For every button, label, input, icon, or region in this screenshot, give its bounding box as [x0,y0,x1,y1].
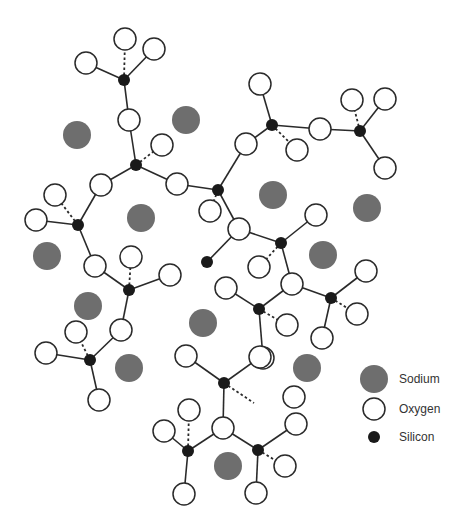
sodium-atom [309,241,337,269]
oxygen-atom [286,139,308,161]
legend-label-oxygen: Oxygen [399,402,440,416]
oxygen-atom [120,246,142,268]
oxygen-atom [178,399,200,421]
oxygen-atom [212,417,234,439]
legend-icons [360,365,388,443]
silicon-atom [325,292,337,304]
oxygen-atom [65,321,87,343]
oxygen-atom [173,483,195,505]
oxygen-atom [215,277,237,299]
oxygen-atom [245,482,267,504]
legend-label-silicon: Silicon [399,430,434,444]
legend-silicon-icon [368,431,380,443]
sodium-atom [353,194,381,222]
oxygen-atom [25,209,47,231]
oxygen-atom [341,89,363,111]
oxygen-atom [90,174,112,196]
oxygen-atom [346,303,368,325]
oxygen-atom [374,157,396,179]
sodium-atom [214,452,242,480]
oxygen-atom [143,38,165,60]
sodium-atom [33,242,61,270]
oxygen-atom [276,314,298,336]
silicate-network-diagram [0,0,455,528]
oxygen-atom [84,255,106,277]
oxygen-atom [309,118,331,140]
sodium-atom [63,121,91,149]
silicon-atom [130,159,142,171]
oxygen-atom [311,327,333,349]
sodium-atom [259,181,287,209]
sodium-atom [172,106,200,134]
silicon-atom [212,184,224,196]
oxygen-atom [305,204,327,226]
oxygen-atom [175,345,197,367]
oxygen-atom [228,218,250,240]
oxygen-atom [274,455,296,477]
oxygen-atom [283,386,305,408]
silicon-atom [266,119,278,131]
oxygen-atom [44,184,66,206]
oxygen-atom [153,420,175,442]
oxygen-atom [355,260,377,282]
sodium-atom [127,204,155,232]
oxygen-atom [249,346,271,368]
sodium-atom [189,309,217,337]
oxygen-atom [151,134,173,156]
oxygen-atom [114,28,136,50]
legend-label-sodium: Sodium [399,372,440,386]
silicon-atom [84,354,96,366]
oxygen-atom [118,109,140,131]
silicon-atom [275,237,287,249]
sodium-atom [293,354,321,382]
silicon-atom [123,284,135,296]
oxygen-atom [235,133,257,155]
oxygen-atom [88,389,110,411]
silicon-atom [118,74,130,86]
silicon-atom [354,125,366,137]
silicon-atom [253,303,265,315]
silicon-atom [182,445,194,457]
oxygen-atom [281,273,303,295]
legend-sodium-icon [360,365,388,393]
oxygen-atom [166,173,188,195]
silicon-atom [72,219,84,231]
silicon-atom [218,377,230,389]
sodium-atom [74,292,102,320]
oxygen-atom [110,319,132,341]
silicon-atom [252,444,264,456]
legend-oxygen-icon [363,398,385,420]
oxygen-atom [248,256,270,278]
oxygen-atom [249,73,271,95]
oxygen-atom [35,342,57,364]
sodium-atom [115,354,143,382]
oxygen-atom [199,200,221,222]
oxygen-atom [75,52,97,74]
oxygen-atom [285,413,307,435]
oxygen-atom [374,88,396,110]
silicon-atom [201,256,213,268]
oxygen-atom [159,264,181,286]
